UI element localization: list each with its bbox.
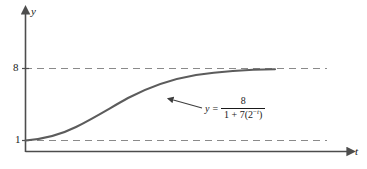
x-axis-label: t [355,146,358,157]
figure-container: y t 8 1 y = 8 1 + 7(2−t) [0,0,367,169]
annotation-leader-line [168,99,202,109]
equation-equals-sign: = [212,103,218,114]
equation-denominator: 1 + 7(2−t) [221,109,265,121]
plot-svg [0,0,367,169]
equation-fraction: 8 1 + 7(2−t) [221,96,265,120]
equation-numerator: 8 [237,96,250,108]
denominator-prefix: 1 + 7(2 [224,109,253,120]
y-tick-label-8: 8 [13,62,19,73]
equation-annotation: y = 8 1 + 7(2−t) [205,96,265,120]
y-tick-label-1: 1 [15,134,21,145]
y-axis-label: y [31,6,36,17]
denominator-suffix: ) [259,109,262,120]
equation-lhs: y [205,103,209,114]
